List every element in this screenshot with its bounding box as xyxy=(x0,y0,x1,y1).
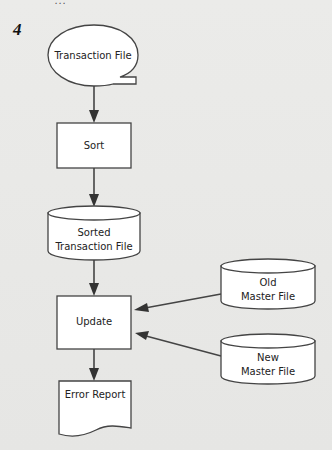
node-update: Update xyxy=(57,296,131,349)
node-new-master-file: New Master File xyxy=(221,334,315,384)
figure-page: ... 4 Transa xyxy=(0,0,332,450)
node-old-master-file: Old Master File xyxy=(221,259,315,309)
node-error-report: Error Report xyxy=(59,381,131,436)
node-label: Master File xyxy=(241,291,295,302)
node-label: Error Report xyxy=(65,389,126,400)
node-label: Sorted xyxy=(78,227,111,238)
node-label: Old xyxy=(260,277,277,288)
edge-sorted-to-update xyxy=(89,260,99,296)
node-label: New xyxy=(257,352,279,363)
edge-sort-to-sorted xyxy=(89,168,99,207)
edge-new-master-to-update xyxy=(135,331,221,356)
node-label: Transaction File xyxy=(54,241,132,252)
node-label: Update xyxy=(76,316,112,327)
node-sort: Sort xyxy=(57,123,131,168)
edge-transaction-to-sort xyxy=(89,84,99,123)
node-transaction-file: Transaction File xyxy=(48,25,138,86)
node-label: Sort xyxy=(84,140,105,151)
node-sorted-transaction-file: Sorted Transaction File xyxy=(48,206,140,260)
node-label: Master File xyxy=(241,366,295,377)
flowchart: Transaction File Sort Sorted Transaction… xyxy=(0,0,332,450)
edge-update-to-error-report xyxy=(89,349,99,381)
edge-old-master-to-update xyxy=(134,294,221,312)
node-label: Transaction File xyxy=(53,50,131,61)
